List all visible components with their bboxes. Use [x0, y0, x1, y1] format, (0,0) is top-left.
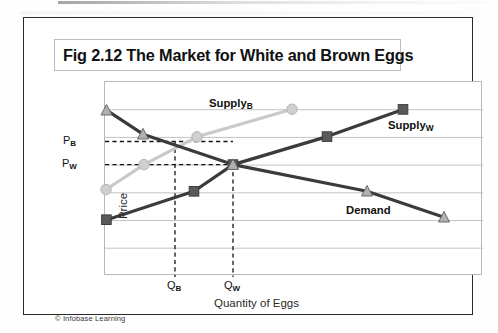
- data-point: [101, 184, 111, 194]
- scan-artifact-secondary: [20, 12, 480, 14]
- y-tick-label-pb: PB: [63, 134, 76, 146]
- x-tick-label-qw: QW: [224, 279, 240, 291]
- series-line-supply-b: [106, 109, 292, 189]
- data-point: [287, 104, 297, 114]
- data-point: [398, 105, 408, 115]
- scan-artifact-top: [58, 1, 488, 4]
- figure-page: Fig 2.12 The Market for White and Brown …: [0, 0, 498, 333]
- x-tick-label-qb: QB: [167, 279, 181, 291]
- chart-plot-area: Price: [104, 81, 482, 275]
- axis-label-y: Price: [117, 176, 129, 236]
- data-point: [139, 159, 149, 169]
- data-point: [189, 187, 199, 197]
- chart-canvas: [25, 19, 498, 333]
- series-label-supply-b: SupplyB: [209, 97, 253, 109]
- data-point: [192, 132, 202, 142]
- series-label-demand: Demand: [346, 204, 391, 216]
- series-label-supply-w: SupplyW: [388, 119, 434, 131]
- y-tick-label-pw: PW: [62, 157, 77, 169]
- copyright-credit: © Infobase Learning: [55, 314, 125, 323]
- figure-frame: Fig 2.12 The Market for White and Brown …: [23, 17, 473, 315]
- axis-label-x: Quantity of Eggs: [214, 297, 299, 309]
- data-point: [322, 132, 332, 142]
- data-point: [102, 215, 112, 225]
